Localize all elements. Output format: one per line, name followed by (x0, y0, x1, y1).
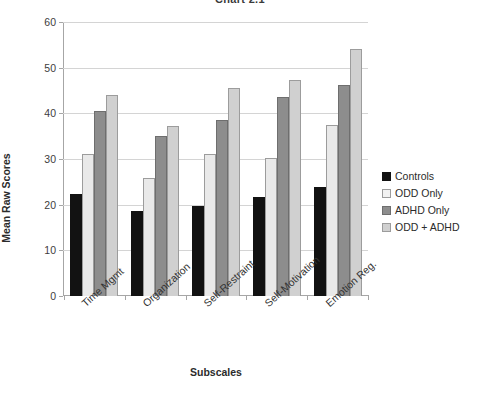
x-axis-category-labels: Time MgmtOrganizationSelf-RestraintSelf-… (63, 300, 369, 358)
legend-label: ADHD Only (395, 204, 449, 216)
y-tick-label: 60 (44, 16, 56, 28)
y-tick-mark (59, 159, 63, 160)
legend-swatch-icon (382, 206, 391, 215)
bar[interactable] (253, 197, 265, 296)
bar[interactable] (265, 158, 277, 296)
bar-groups (64, 22, 368, 296)
bar-group-organization (125, 22, 186, 296)
bar-group-emotion-reg (307, 22, 368, 296)
legend-label: ODD + ADHD (395, 221, 459, 233)
legend-swatch-icon (382, 172, 391, 181)
bar[interactable] (289, 80, 301, 296)
bar[interactable] (155, 136, 167, 296)
legend-swatch-icon (382, 223, 391, 232)
bar-group-time-mgmt (64, 22, 125, 296)
y-tick-label: 0 (50, 290, 56, 302)
bar[interactable] (143, 178, 155, 296)
bar-group-self-restraint (186, 22, 247, 296)
legend-item[interactable]: Controls (382, 168, 478, 184)
bar-chart-figure: Chart 2.1 Mean Raw Scores 0102030405060 … (0, 0, 480, 396)
y-tick-label: 50 (44, 62, 56, 74)
bar[interactable] (94, 111, 106, 296)
bar[interactable] (314, 187, 326, 296)
y-axis-title: Mean Raw Scores (0, 123, 12, 273)
legend-item[interactable]: ODD + ADHD (382, 219, 478, 235)
y-tick-mark (59, 250, 63, 251)
legend-item[interactable]: ADHD Only (382, 202, 478, 218)
bar[interactable] (70, 194, 82, 296)
y-tick-label: 10 (44, 244, 56, 256)
bar[interactable] (277, 97, 289, 296)
bar[interactable] (204, 154, 216, 296)
y-tick-mark (59, 113, 63, 114)
y-tick-mark (59, 22, 63, 23)
x-axis-title: Subscales (63, 366, 369, 378)
bar[interactable] (326, 125, 338, 296)
bar[interactable] (82, 154, 94, 296)
bar-group-self-motivation (246, 22, 307, 296)
y-tick-label: 30 (44, 153, 56, 165)
bar[interactable] (350, 49, 362, 297)
legend-label: Controls (395, 170, 434, 182)
legend-item[interactable]: ODD Only (382, 185, 478, 201)
legend-swatch-icon (382, 189, 391, 198)
chart-legend: ControlsODD OnlyADHD OnlyODD + ADHD (382, 168, 478, 236)
y-tick-mark (59, 68, 63, 69)
y-tick-mark (59, 296, 63, 297)
bar[interactable] (131, 211, 143, 296)
chart-title: Chart 2.1 (0, 0, 480, 3)
bar[interactable] (338, 85, 350, 296)
plot-area: 0102030405060 (63, 22, 368, 296)
bar[interactable] (216, 120, 228, 296)
y-tick-label: 40 (44, 107, 56, 119)
y-tick-label: 20 (44, 199, 56, 211)
legend-label: ODD Only (395, 187, 443, 199)
y-tick-mark (59, 205, 63, 206)
bar[interactable] (192, 206, 204, 296)
